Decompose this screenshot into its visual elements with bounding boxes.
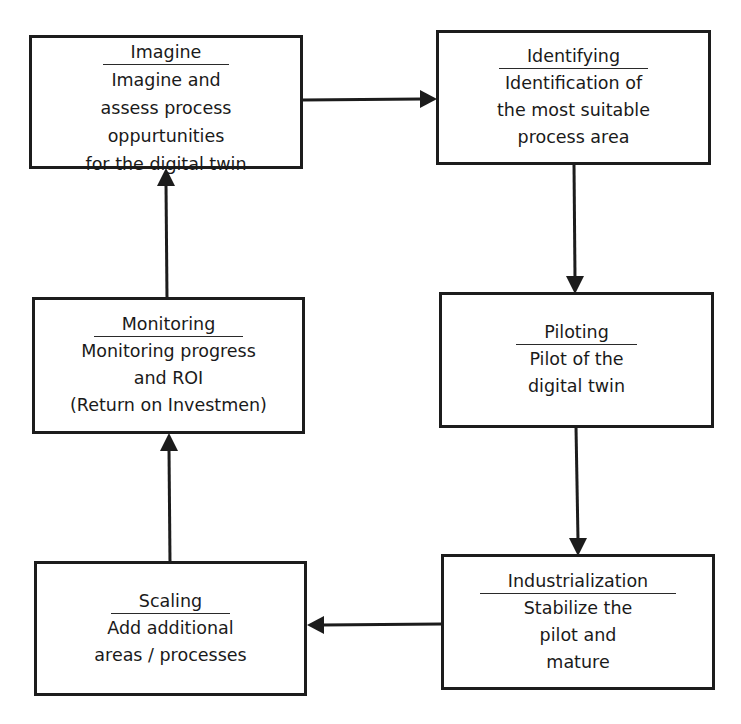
node-scaling-title: Scaling [111, 589, 230, 614]
node-identifying-title: Identifying [499, 44, 648, 69]
arrow-monitoring-to-imagine [157, 168, 175, 298]
arrow-imagine-to-identifying [302, 90, 437, 108]
node-imagine: Imagine Imagine and assess process oppur… [29, 35, 303, 169]
node-piloting: Piloting Pilot of the digital twin [439, 292, 714, 428]
arrow-industrialization-to-scaling [307, 616, 442, 634]
node-piloting-title: Piloting [516, 320, 637, 345]
node-imagine-description: Imagine and assess process oppurtunities… [86, 66, 247, 178]
node-scaling: Scaling Add additional areas / processes [34, 561, 307, 696]
node-piloting-description: Pilot of the digital twin [528, 346, 625, 400]
node-monitoring: Monitoring Monitoring progress and ROI (… [32, 297, 305, 434]
node-identifying: Identifying Identification of the most s… [436, 30, 711, 165]
arrow-identifying-to-piloting [566, 164, 584, 294]
node-monitoring-title: Monitoring [94, 312, 244, 337]
node-industrialization: Industrialization Stabilize the pilot an… [441, 554, 715, 690]
arrow-scaling-to-monitoring [160, 433, 178, 562]
arrow-piloting-to-industrialization [569, 427, 587, 556]
node-identifying-description: Identification of the most suitable proc… [497, 70, 650, 151]
node-scaling-description: Add additional areas / processes [94, 615, 246, 669]
node-industrialization-description: Stabilize the pilot and mature [524, 595, 633, 676]
node-imagine-title: Imagine [103, 40, 230, 65]
node-industrialization-title: Industrialization [480, 569, 676, 594]
process-flow-diagram: Imagine Imagine and assess process oppur… [0, 0, 741, 724]
node-monitoring-description: Monitoring progress and ROI (Return on I… [70, 338, 267, 419]
